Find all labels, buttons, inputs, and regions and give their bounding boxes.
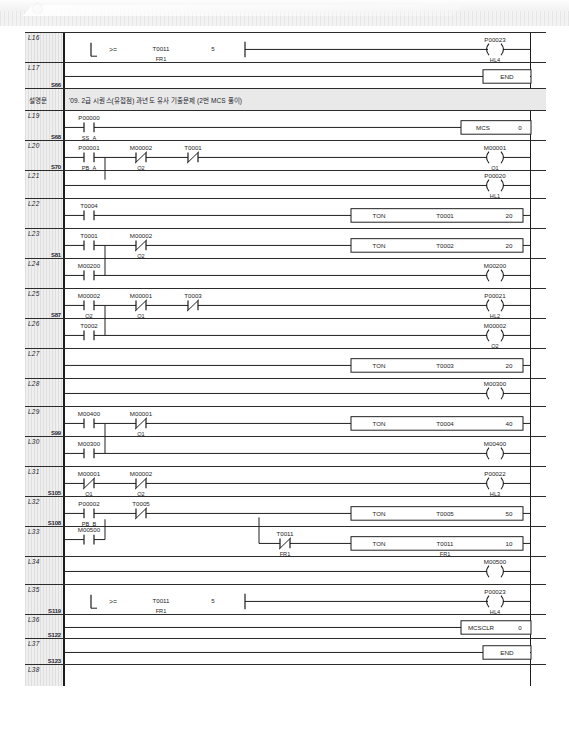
svg-text:T0004: T0004: [80, 202, 98, 209]
ladder-rung[interactable]: L32S108P00002PB_BT0005TONT000550: [25, 496, 546, 526]
svg-text:T0004: T0004: [436, 420, 454, 427]
rung-canvas: M00001Q1M00002Q2P00022HL3: [63, 467, 546, 496]
rung-line-number: L27: [28, 350, 39, 357]
svg-text:M00500: M00500: [484, 558, 507, 565]
svg-text:MCS: MCS: [476, 124, 490, 131]
ladder-rung[interactable]: L27TONT000320: [25, 348, 546, 378]
ladder-rung[interactable]: L24M00200M00200: [25, 258, 546, 288]
ladder-rung[interactable]: L33M00500T0011FR1TONT0011FR110: [25, 526, 546, 556]
svg-text:M00001: M00001: [130, 410, 153, 417]
line-number-gutter: L36S122: [25, 615, 63, 638]
svg-text:P00000: P00000: [78, 114, 100, 121]
rung-line-number: L28: [28, 380, 39, 387]
rung-line-number: L30: [28, 438, 39, 445]
svg-text:T0011: T0011: [436, 540, 454, 547]
line-number-gutter: L34: [25, 557, 63, 584]
ladder-rung[interactable]: L35S119>=T0011FR15P00023HL4: [25, 584, 546, 614]
rung-canvas: >=T0011FR15P00023HL4: [63, 585, 546, 614]
rung-line-number: L25: [28, 290, 39, 297]
line-number-gutter: L29S99: [25, 407, 63, 436]
svg-text:M00002: M00002: [130, 144, 153, 151]
line-number-gutter: L38: [25, 665, 63, 686]
ladder-rung[interactable]: L26T0002M00002Q2: [25, 318, 546, 348]
rung-canvas: P00020HL1: [63, 171, 546, 198]
ladder-rung[interactable]: L23S81T0001M00002Q2TONT000220: [25, 228, 546, 258]
ladder-rung[interactable]: L31S105M00001Q1M00002Q2P00022HL3: [25, 466, 546, 496]
svg-text:20: 20: [506, 362, 514, 369]
ladder-rung[interactable]: L36S122MCSCLR0: [25, 614, 546, 638]
rung-canvas: M00300M00400: [63, 437, 546, 466]
svg-text:T0003: T0003: [436, 362, 454, 369]
line-number-gutter: L24: [25, 259, 63, 288]
comment-text: '09. 2급 시퀀스(유접점) 과년도 유사 기출문제 (2번 MCS 풀이): [69, 95, 242, 105]
line-number-gutter: L28: [25, 379, 63, 406]
svg-text:TON: TON: [373, 242, 386, 249]
ladder-sheet: L16>=T0011FR15P00023HL4L17S66END설명문'09. …: [25, 32, 546, 732]
svg-text:END: END: [500, 73, 514, 80]
svg-text:T0002: T0002: [436, 242, 454, 249]
ladder-rung[interactable]: L28M00300: [25, 378, 546, 406]
svg-text:T0011: T0011: [152, 597, 170, 604]
svg-text:5: 5: [211, 597, 215, 604]
comment-rail: [63, 89, 65, 110]
ladder-rung[interactable]: L34M00500: [25, 556, 546, 584]
svg-text:T0001: T0001: [184, 144, 202, 151]
ladder-rung[interactable]: L22T0004TONT000120: [25, 198, 546, 228]
svg-text:P00021: P00021: [484, 292, 506, 299]
rung-canvas: M00500: [63, 557, 546, 584]
svg-text:TON: TON: [373, 362, 386, 369]
svg-text:TON: TON: [373, 540, 386, 547]
svg-text:M00002: M00002: [484, 322, 507, 329]
scan-sweep-line: [23, 4, 464, 16]
line-number-gutter: L21: [25, 171, 63, 198]
rung-canvas: T0002M00002Q2: [63, 319, 546, 348]
rung-canvas: MCSCLR0: [63, 615, 546, 638]
rung-canvas: P00000SS_AMCS0: [63, 111, 546, 140]
rung-canvas: T0001M00002Q2TONT000220: [63, 229, 546, 258]
ladder-rung[interactable]: L25S87M00002Q2M00001Q1T0003P00021HL2: [25, 288, 546, 318]
svg-text:>=: >=: [109, 598, 117, 605]
ladder-rung[interactable]: L21P00020HL1: [25, 170, 546, 198]
rung-line-number: L32: [28, 498, 39, 505]
line-number-gutter: L37S123: [25, 639, 63, 664]
svg-text:M00300: M00300: [78, 440, 101, 447]
rung-line-number: L16: [28, 34, 39, 41]
svg-text:20: 20: [506, 242, 514, 249]
svg-text:10: 10: [506, 540, 514, 547]
comment-label: 설명문: [29, 95, 47, 105]
svg-text:TON: TON: [373, 420, 386, 427]
ladder-rung[interactable]: L38: [25, 664, 546, 686]
svg-text:M00002: M00002: [78, 292, 101, 299]
svg-text:M00001: M00001: [130, 292, 153, 299]
ladder-rung[interactable]: L37S123END: [25, 638, 546, 664]
svg-text:M00200: M00200: [78, 262, 101, 269]
svg-text:M00002: M00002: [130, 470, 153, 477]
ladder-rung[interactable]: L30M00300M00400: [25, 436, 546, 466]
rung-canvas: M00300: [63, 379, 546, 406]
line-number-gutter: L26: [25, 319, 63, 348]
line-number-gutter: L32S108: [25, 497, 63, 526]
svg-text:END: END: [500, 649, 514, 656]
ladder-rung[interactable]: L29S99M00400M00001Q1TONT000440: [25, 406, 546, 436]
line-number-gutter: L27: [25, 349, 63, 378]
svg-text:0: 0: [518, 124, 522, 131]
rung-line-number: L20: [28, 142, 39, 149]
comment-row[interactable]: 설명문'09. 2급 시퀀스(유접점) 과년도 유사 기출문제 (2번 MCS …: [25, 88, 546, 110]
rung-line-number: L35: [28, 586, 39, 593]
svg-text:M00001: M00001: [78, 470, 101, 477]
line-number-gutter: L17S66: [25, 63, 63, 88]
svg-text:T0001: T0001: [80, 232, 98, 239]
svg-text:P00001: P00001: [78, 144, 100, 151]
svg-text:T0005: T0005: [436, 510, 454, 517]
svg-text:M00001: M00001: [484, 144, 507, 151]
rung-canvas: [63, 665, 546, 686]
svg-text:T0003: T0003: [184, 292, 202, 299]
ladder-rung[interactable]: L20S70P00001PB_AM00002Q2T0001M00001Q1: [25, 140, 546, 170]
ladder-rung[interactable]: L19S68P00000SS_AMCS0: [25, 110, 546, 140]
svg-text:5: 5: [211, 45, 215, 52]
svg-text:P00002: P00002: [78, 500, 100, 507]
ladder-rung[interactable]: L16>=T0011FR15P00023HL4: [25, 32, 546, 62]
ladder-rung[interactable]: L17S66END: [25, 62, 546, 88]
scan-dot: [33, 4, 42, 13]
rung-canvas: M00002Q2M00001Q1T0003P00021HL2: [63, 289, 546, 318]
